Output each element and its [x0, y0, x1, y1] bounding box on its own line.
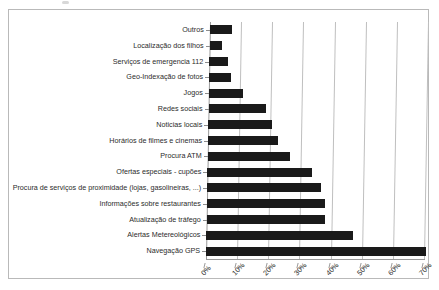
chart-figure: 0%10%20%30%40%50%60%70%OutrosLocalização…	[0, 0, 439, 290]
category-tick-mark	[203, 204, 207, 205]
bar	[206, 231, 352, 240]
x-tick-label: 20%	[261, 261, 278, 278]
category-tick-mark	[206, 46, 210, 47]
bar	[210, 25, 232, 34]
category-tick-mark	[203, 172, 207, 173]
category-tick-mark	[202, 235, 206, 236]
category-tick-mark	[205, 77, 209, 78]
category-label: Localização dos filhos	[0, 41, 204, 50]
category-tick-mark	[204, 156, 208, 157]
bar	[209, 104, 267, 113]
x-tick-label: 0%	[199, 264, 213, 278]
x-tick-label: 60%	[386, 261, 403, 278]
category-tick-mark	[206, 30, 210, 31]
category-label: Noticias locais	[0, 120, 202, 129]
category-label: Alertas Metereológicos	[0, 230, 200, 239]
gridline-50	[362, 22, 367, 259]
category-tick-mark	[203, 220, 207, 221]
category-label: Procura ATM	[0, 151, 202, 160]
category-label: Ofertas especiais - cupões	[0, 167, 201, 176]
category-tick-mark	[205, 62, 209, 63]
x-tick-label: 10%	[230, 261, 247, 278]
bar-chart-plot-area: 0%10%20%30%40%50%60%70%OutrosLocalização…	[0, 0, 439, 290]
category-tick-mark	[205, 93, 209, 94]
bar	[209, 73, 231, 82]
bar	[209, 57, 228, 66]
x-tick-label: 30%	[292, 261, 309, 278]
category-tick-mark	[203, 188, 207, 189]
category-tick-mark	[204, 125, 208, 126]
bar	[207, 215, 325, 224]
category-label: Geo-Indexação de fotos	[0, 72, 203, 81]
category-label: Navegação GPS	[0, 246, 200, 255]
category-tick-mark	[202, 251, 206, 252]
x-tick-label: 70%	[417, 261, 434, 278]
category-label: Serviços de emergencia 112	[0, 57, 203, 66]
value-axis-line	[206, 259, 425, 260]
category-label: Procura de serviços de proximidade (loja…	[0, 183, 201, 192]
bar	[207, 199, 325, 208]
bar	[208, 152, 291, 161]
category-label: Atualização de tráfego	[0, 215, 201, 224]
x-tick-label: 40%	[324, 261, 341, 278]
bar	[208, 136, 278, 145]
gridline-60	[393, 22, 398, 259]
category-label: Informações sobre restaurantes	[0, 199, 201, 208]
bar	[208, 120, 272, 129]
category-label: Horários de filmes e cinemas	[0, 136, 202, 145]
gridline-70	[424, 22, 429, 259]
bar	[206, 247, 426, 256]
category-tick-mark	[204, 141, 208, 142]
bar	[207, 168, 311, 177]
x-tick-label: 50%	[355, 261, 372, 278]
bar	[207, 183, 321, 192]
bar	[209, 89, 243, 98]
category-label: Jogos	[0, 88, 203, 97]
category-label: Outros	[0, 25, 204, 34]
category-tick-mark	[205, 109, 209, 110]
bar	[210, 41, 222, 50]
category-label: Redes sociais	[0, 104, 203, 113]
gridline-40	[331, 22, 336, 259]
